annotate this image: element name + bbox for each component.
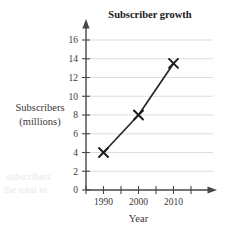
chart-figure: subscribers the total in [0, 0, 229, 231]
y-tick-label-0: 0 [73, 185, 78, 195]
y-tick-label-4: 4 [73, 148, 78, 158]
x-axis-tick-labels: 1990 2000 2010 [94, 197, 183, 207]
y-tick-label-2: 2 [73, 167, 78, 177]
y-axis-title-line2: (millions) [19, 116, 61, 128]
svg-text:subscribers: subscribers [6, 171, 51, 182]
y-tick-label-6: 6 [73, 129, 78, 139]
x-axis-title: Year [129, 213, 149, 224]
y-tick-label-10: 10 [69, 92, 79, 102]
x-tick-label-2000: 2000 [129, 197, 148, 207]
y-tick-label-16: 16 [69, 35, 79, 45]
svg-text:the total in: the total in [4, 184, 47, 195]
y-tick-label-14: 14 [69, 54, 79, 64]
chart-title: Subscriber growth [108, 9, 191, 20]
subscriber-growth-line-chart: subscribers the total in [0, 0, 229, 231]
y-tick-label-12: 12 [69, 73, 79, 83]
y-tick-label-8: 8 [73, 110, 78, 120]
x-tick-label-1990: 1990 [94, 197, 113, 207]
x-tick-label-2010: 2010 [164, 197, 183, 207]
y-axis-title-line1: Subscribers [16, 102, 65, 113]
